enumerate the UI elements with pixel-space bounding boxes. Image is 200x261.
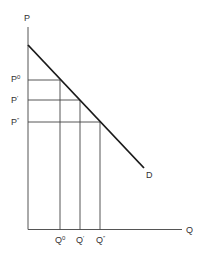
x-axis-label: Q [186, 225, 193, 235]
price-label-p2: P″ [11, 117, 20, 127]
demand-curve [28, 45, 144, 168]
y-axis-label: P [24, 13, 30, 23]
demand-diagram: P Q D P0 P′ P″ Q0 Q′ Q″ [0, 0, 200, 261]
quantity-label-q0: Q0 [55, 235, 66, 245]
price-label-p1: P′ [11, 95, 19, 105]
quantity-label-q2: Q″ [96, 235, 106, 245]
price-label-p0: P0 [11, 74, 21, 84]
quantity-label-q1: Q′ [76, 235, 85, 245]
curve-label-d: D [146, 170, 153, 180]
